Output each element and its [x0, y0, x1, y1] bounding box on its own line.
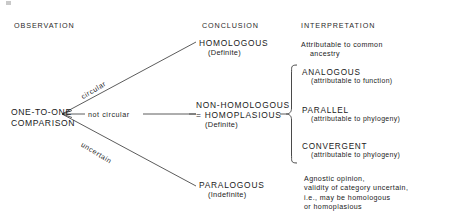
interpretation-paralogous-line1: Agnostic opinion, — [304, 175, 408, 184]
conclusion-homologous-name: HOMOLOGOUS — [199, 38, 268, 48]
interpretation-parallel-detail: (attributable to phylogeny) — [302, 115, 400, 122]
branch-label-uncertain-wrap: uncertain — [84, 140, 119, 149]
conclusion-non-homologous-certainty: (Definite) — [196, 120, 290, 129]
column-heading-conclusion: CONCLUSION — [202, 21, 259, 30]
interpretation-convergent: CONVERGENT (attributable to phylogeny) — [302, 142, 400, 158]
interpretation-paralogous-line2: validity of category uncertain, — [304, 184, 408, 193]
conclusion-non-homologous-alias: = HOMOPLASIOUS — [196, 110, 290, 120]
interpretation-convergent-name: CONVERGENT — [302, 142, 400, 151]
column-heading-interpretation: INTERPRETATION — [301, 21, 375, 30]
interpretation-homologous-line2: ancestry — [301, 50, 383, 59]
interpretation-homologous: Attributable to common ancestry — [301, 41, 383, 60]
diagram-canvas: OBSERVATION CONCLUSION INTERPRETATION ON… — [0, 0, 450, 212]
root-node-line1: ONE-TO-ONE — [11, 107, 75, 118]
branch-label-circular-wrap: circular — [84, 92, 112, 101]
branch-label-circular: circular — [79, 79, 107, 101]
branch-line-uncertain — [62, 114, 196, 186]
interpretation-parallel-name: PARALLEL — [302, 106, 400, 115]
root-node-line2: COMPARISON — [11, 118, 75, 129]
interpretation-parallel: PARALLEL (attributable to phylogeny) — [302, 106, 400, 122]
interpretation-convergent-detail: (attributable to phylogeny) — [302, 151, 400, 158]
interpretation-paralogous-line3: i.e., may be homologous — [304, 194, 408, 203]
branch-line-circular — [62, 42, 196, 114]
conclusion-paralogous-name: PARALOGOUS — [199, 180, 265, 190]
conclusion-paralogous: PARALOGOUS (Indefinite) — [199, 180, 265, 199]
conclusion-non-homologous: NON-HOMOLOGOUS = HOMOPLASIOUS (Definite) — [196, 100, 290, 129]
column-heading-observation: OBSERVATION — [14, 21, 75, 30]
branch-label-uncertain: uncertain — [79, 140, 113, 165]
branch-label-not-circular: not circular — [88, 110, 130, 119]
interpretation-analogous-name: ANALOGOUS — [302, 68, 393, 77]
interpretation-analogous-detail: (attributable to function) — [302, 77, 393, 84]
root-node-one-to-one-comparison: ONE-TO-ONE COMPARISON — [11, 107, 75, 129]
conclusion-paralogous-certainty: (Indefinite) — [199, 190, 265, 199]
interpretation-analogous: ANALOGOUS (attributable to function) — [302, 68, 393, 84]
conclusion-non-homologous-name: NON-HOMOLOGOUS — [196, 100, 290, 110]
interpretation-paralogous-line4: or homoplasious — [304, 203, 408, 212]
interpretation-homologous-line1: Attributable to common — [301, 41, 383, 50]
interpretation-paralogous: Agnostic opinion, validity of category u… — [304, 175, 408, 212]
conclusion-homologous-certainty: (Definite) — [199, 48, 268, 57]
conclusion-homologous: HOMOLOGOUS (Definite) — [199, 38, 268, 57]
scan-artifact — [6, 1, 11, 5]
